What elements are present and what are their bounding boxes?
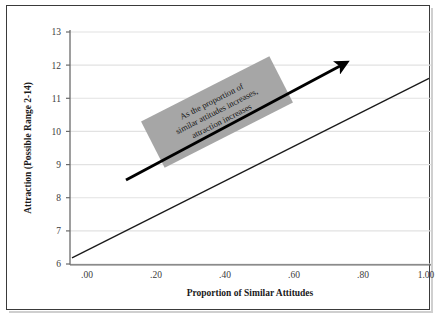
x-tick-label: .80 — [357, 270, 369, 280]
x-tick-label: .20 — [150, 270, 162, 280]
y-tick-label: 8 — [56, 193, 61, 203]
x-axis-tick-labels: .00 .20 .40 .60 .80 1.00 — [81, 270, 435, 280]
x-tick-label: .00 — [81, 270, 93, 280]
x-tick-label: .40 — [219, 270, 231, 280]
x-tick-label: .60 — [288, 270, 300, 280]
chart-canvas: 6 7 8 9 10 11 12 13 .00 .20 .40 .60 .80 … — [0, 0, 441, 325]
y-axis-tick-labels: 6 7 8 9 10 11 12 13 — [52, 27, 62, 269]
y-axis-title: Attraction (Possible Range 2-14) — [23, 82, 34, 214]
y-tick-label: 6 — [56, 259, 61, 269]
y-tick-label: 11 — [52, 94, 61, 104]
x-tick-label: 1.00 — [418, 270, 435, 280]
y-tick-label: 10 — [52, 127, 62, 137]
figure-root: 6 7 8 9 10 11 12 13 .00 .20 .40 .60 .80 … — [0, 0, 441, 325]
y-tick-label: 13 — [52, 27, 62, 37]
y-tick-label: 7 — [56, 226, 61, 236]
y-tick-label: 9 — [56, 160, 61, 170]
callout-box: As the proportion of similar attitudes i… — [141, 56, 293, 168]
y-tick-label: 12 — [52, 61, 62, 71]
x-axis-title: Proportion of Similar Attitudes — [187, 288, 314, 298]
